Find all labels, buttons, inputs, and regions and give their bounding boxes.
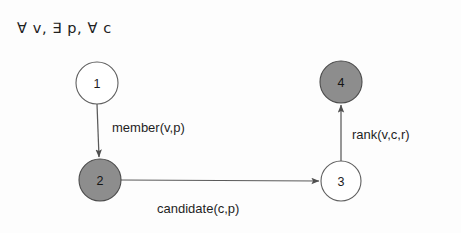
edge-label-candidate: candidate(c,p) xyxy=(157,201,239,216)
node-3[interactable]: 3 xyxy=(321,161,361,201)
edge-label-member: member(v,p) xyxy=(112,120,185,135)
node-2-label: 2 xyxy=(97,174,104,188)
node-4[interactable]: 4 xyxy=(320,61,362,103)
node-1-label: 1 xyxy=(94,77,101,91)
node-3-label: 3 xyxy=(338,175,345,189)
node-1[interactable]: 1 xyxy=(76,62,118,104)
graph-canvas: 1 2 3 4 xyxy=(0,0,461,233)
edge-line-candidate xyxy=(121,180,319,181)
node-2[interactable]: 2 xyxy=(79,159,121,201)
node-4-label: 4 xyxy=(338,76,345,90)
dependency-graph-figure: ∀ v, ∃ p, ∀ c 1 2 3 4 xyxy=(0,0,461,233)
edge-label-rank: rank(v,c,r) xyxy=(352,127,410,142)
edge-line-member xyxy=(97,104,99,157)
